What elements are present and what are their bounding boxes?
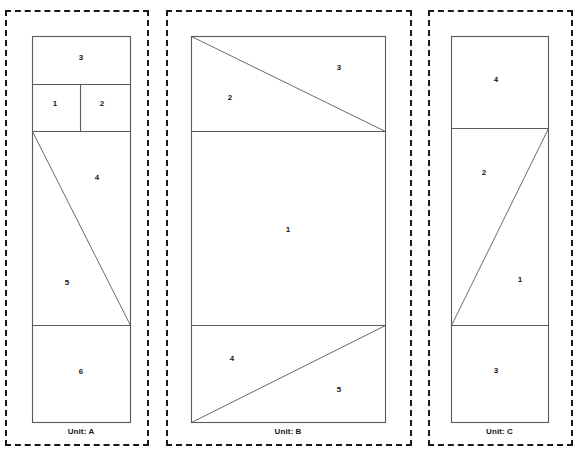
panel-a-region-label: 6 [79, 368, 83, 376]
panel-a-frame [5, 10, 149, 446]
panel-a-region-label: 1 [53, 100, 57, 108]
panel-a-region-label: 3 [79, 54, 83, 62]
diagram-canvas: 312456Unit: A23145Unit: B4213Unit: C [0, 0, 580, 458]
panel-b-region-label: 1 [286, 226, 290, 234]
panel-a-region-label: 5 [65, 279, 69, 287]
panel-c-region-label: 4 [494, 76, 498, 84]
panel-b-unit-caption: Unit: B [191, 427, 385, 436]
panel-b-region-label: 5 [337, 386, 341, 394]
panel-a-region-label: 4 [95, 174, 99, 182]
panel-c-frame [428, 10, 573, 446]
panel-c-region-label: 1 [518, 276, 522, 284]
panel-a-unit-caption: Unit: A [32, 427, 130, 436]
panel-c-region-label: 3 [494, 367, 498, 375]
panel-b-region-label: 4 [230, 355, 234, 363]
panel-c-unit-caption: Unit: C [451, 427, 548, 436]
panel-c-region-label: 2 [482, 169, 486, 177]
panel-a-region-label: 2 [100, 100, 104, 108]
panel-b-region-label: 3 [337, 64, 341, 72]
panel-b-region-label: 2 [228, 94, 232, 102]
